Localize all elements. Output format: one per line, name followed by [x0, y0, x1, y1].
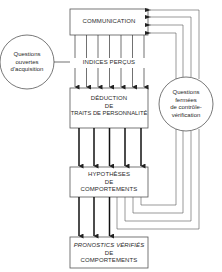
closed-questions-label: Questions fermées de contrôle- vérificat… — [161, 89, 211, 119]
closed-questions-line2: fermées — [161, 97, 211, 105]
diagram-canvas — [0, 0, 222, 272]
closed-questions-line1: Questions — [161, 89, 211, 97]
deduction-to-hypotheses-arrows — [79, 128, 141, 166]
deduction-line2: DE — [70, 103, 148, 111]
hypotheses-line1: HYPOTHÈSES — [70, 171, 148, 179]
pronostics-label: PRONOSTICS VÉRIFIÉS DE COMPORTEMENTS — [70, 242, 148, 265]
hypotheses-label: HYPOTHÈSES DE COMPORTEMENTS — [70, 171, 148, 194]
closed-questions-line4: vérification — [161, 112, 211, 120]
open-questions-line2: ouvertes — [2, 59, 52, 67]
hypotheses-to-pronostics-arrows — [79, 197, 110, 236]
pronostics-line1: PRONOSTICS VÉRIFIÉS — [70, 242, 148, 250]
open-questions-line1: Questions — [2, 51, 52, 59]
deduction-label: DÉDUCTION DE TRAITS DE PERSONNALITÉ — [70, 95, 148, 118]
deduction-line1: DÉDUCTION — [70, 95, 148, 103]
communication-label: COMMUNICATION — [70, 18, 148, 26]
pronostics-line3: COMPORTEMENTS — [70, 257, 148, 265]
indices-percus-label: INDICES PERÇUS — [70, 58, 148, 68]
closed-questions-line3: de contrôle- — [161, 104, 211, 112]
deduction-line3: TRAITS DE PERSONNALITÉ — [70, 110, 148, 118]
open-questions-label: Questions ouvertes d'acquisition — [2, 51, 52, 74]
hypotheses-line3: COMPORTEMENTS — [70, 186, 148, 194]
open-questions-line3: d'acquisition — [2, 66, 52, 74]
pronostics-line2: DE — [70, 250, 148, 258]
hypotheses-line2: DE — [70, 179, 148, 187]
